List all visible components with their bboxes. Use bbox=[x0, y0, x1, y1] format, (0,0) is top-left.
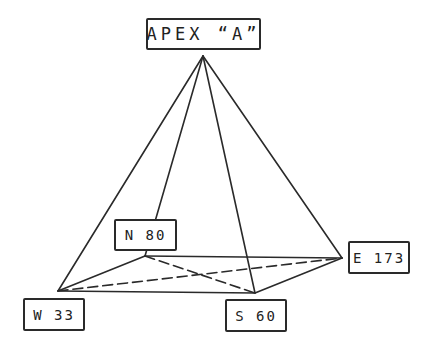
west-vertex-label: W 33 bbox=[23, 298, 85, 331]
edge-north-east bbox=[145, 256, 342, 258]
edge-west-north bbox=[58, 256, 145, 291]
east-vertex-label: E 173 bbox=[348, 241, 410, 274]
apex-label: APEX “A” bbox=[146, 18, 261, 50]
edge-west-south bbox=[58, 291, 255, 293]
north-vertex-label: N 80 bbox=[114, 219, 177, 251]
edge-apex-east bbox=[203, 56, 342, 258]
south-vertex-label: S 60 bbox=[225, 299, 287, 332]
